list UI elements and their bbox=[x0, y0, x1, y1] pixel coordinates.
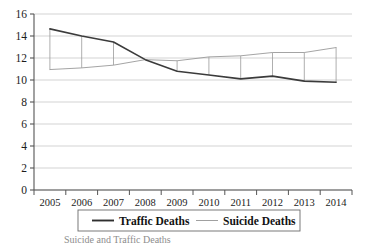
y-tick-label-6: 6 bbox=[21, 118, 27, 130]
x-tick-label-2013: 2013 bbox=[294, 197, 315, 208]
series-connectors-group bbox=[50, 29, 336, 82]
x-tick-label-2006: 2006 bbox=[71, 197, 92, 208]
y-axis-ticks: 0246810121416 bbox=[16, 8, 35, 196]
y-tick-label-4: 4 bbox=[21, 140, 27, 152]
y-tick-label-14: 14 bbox=[16, 30, 28, 42]
legend: Traffic DeathsSuicide Deaths bbox=[78, 210, 300, 231]
x-tick-label-2014: 2014 bbox=[326, 197, 348, 208]
x-tick-label-2007: 2007 bbox=[103, 197, 124, 208]
y-tick-label-12: 12 bbox=[16, 52, 28, 64]
y-tick-label-10: 10 bbox=[16, 74, 28, 86]
line-chart: 0246810121416200520062007200820092010201… bbox=[0, 0, 371, 244]
x-tick-label-2011: 2011 bbox=[230, 197, 251, 208]
legend-label-traffic-deaths: Traffic Deaths bbox=[119, 215, 190, 227]
x-tick-label-2005: 2005 bbox=[39, 197, 60, 208]
y-tick-label-0: 0 bbox=[21, 184, 27, 196]
y-tick-label-8: 8 bbox=[21, 96, 27, 108]
x-tick-label-2008: 2008 bbox=[135, 197, 156, 208]
x-tick-label-2010: 2010 bbox=[198, 197, 219, 208]
series-line-suicide-deaths bbox=[50, 48, 336, 70]
x-tick-label-2012: 2012 bbox=[262, 197, 283, 208]
series-line-traffic-deaths bbox=[50, 29, 336, 82]
chart-container: 0246810121416200520062007200820092010201… bbox=[0, 0, 371, 244]
x-axis-ticks: 2005200620072008200920102011201220132014 bbox=[34, 190, 352, 208]
y-tick-label-2: 2 bbox=[21, 162, 27, 174]
legend-label-suicide-deaths: Suicide Deaths bbox=[223, 215, 296, 227]
chart-caption: Suicide and Traffic Deaths bbox=[64, 234, 171, 244]
y-tick-label-16: 16 bbox=[16, 8, 28, 20]
x-tick-label-2009: 2009 bbox=[167, 197, 188, 208]
